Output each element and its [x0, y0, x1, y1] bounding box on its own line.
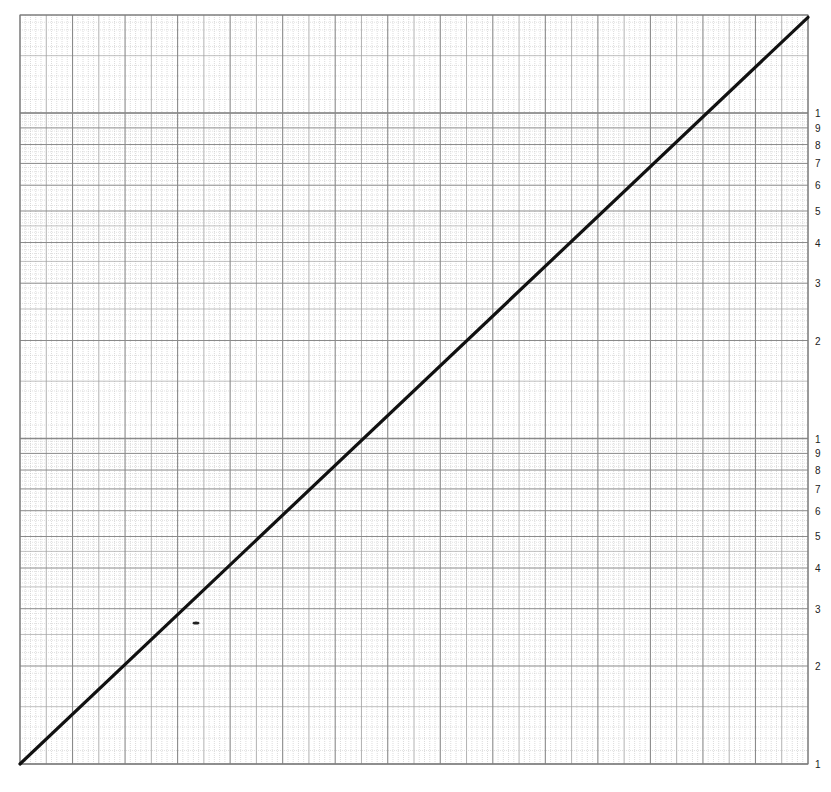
y-tick-label: 5 [815, 207, 821, 217]
semilog-graph-paper [0, 0, 831, 792]
y-tick-label: 6 [815, 181, 821, 191]
y-tick-label: 7 [815, 485, 821, 495]
stray-mark [193, 621, 200, 624]
y-tick-label: 4 [815, 239, 821, 249]
y-tick-label: 4 [815, 564, 821, 574]
y-tick-label: 9 [815, 124, 821, 134]
y-tick-label: 9 [815, 449, 821, 459]
y-tick-label: 8 [815, 466, 821, 476]
y-tick-label: 1 [815, 435, 821, 445]
y-tick-label: 2 [815, 337, 821, 347]
y-tick-label: 3 [815, 279, 821, 289]
y-tick-label: 5 [815, 532, 821, 542]
y-tick-label: 1 [815, 760, 821, 770]
y-tick-label: 3 [815, 605, 821, 615]
y-tick-label: 2 [815, 662, 821, 672]
y-tick-label: 1 [815, 109, 821, 119]
y-tick-label: 8 [815, 141, 821, 151]
y-tick-label: 6 [815, 507, 821, 517]
y-tick-label: 7 [815, 159, 821, 169]
